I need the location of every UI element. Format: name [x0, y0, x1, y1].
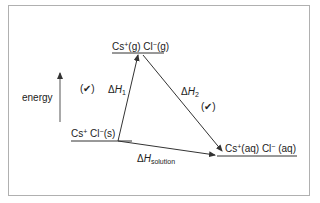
level-right-label: Cs+(aq) Cl− (aq): [225, 143, 296, 154]
check-mark-1: (✔): [80, 84, 95, 94]
dh1-label: ΔH1: [108, 85, 126, 96]
energy-label: energy: [22, 93, 53, 103]
check-mark-2: (✔): [201, 102, 216, 112]
dh2-label: ΔH2: [181, 87, 199, 98]
dh1-arrow: [118, 55, 138, 141]
level-left-label: Cs+ Cl−(s): [71, 128, 115, 139]
dhsol-label: ΔHsolution: [137, 154, 175, 165]
level-top-label: Cs+(g) Cl−(g): [112, 41, 169, 52]
dhsol-arrow: [118, 141, 215, 155]
